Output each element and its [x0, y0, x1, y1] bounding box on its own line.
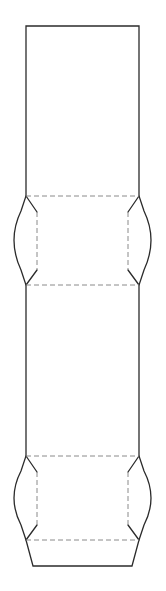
- carton-cut-outline: [14, 26, 151, 566]
- cut-lines-group: [14, 26, 151, 566]
- dieline-drawing: [0, 0, 166, 591]
